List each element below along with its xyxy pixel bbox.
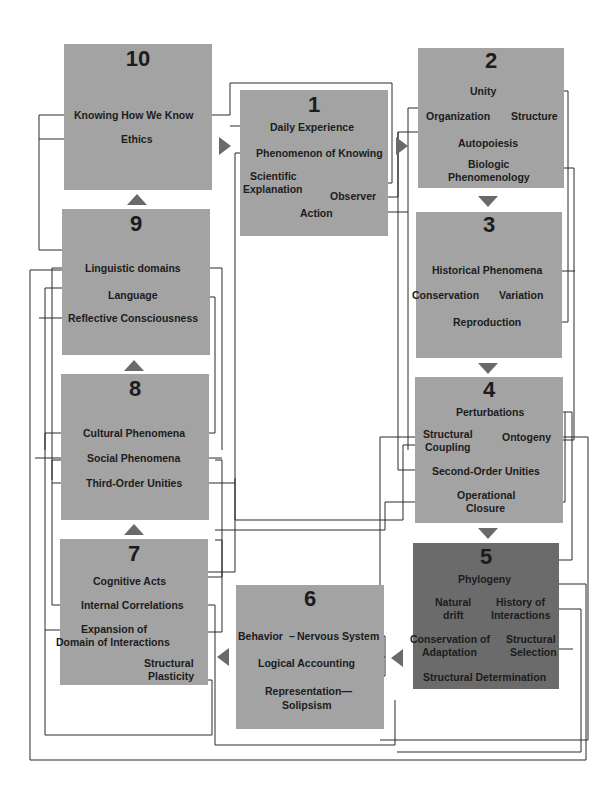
concept-historical-phenomena: Historical Phenomena bbox=[432, 264, 542, 277]
concept-structural-determination: Structural Determination bbox=[423, 671, 546, 684]
concept-behavior: Behavior bbox=[238, 630, 283, 643]
box-1: 1 Daily Experience Phenomenon of Knowing… bbox=[240, 90, 388, 236]
concept-logical-accounting: Logical Accounting bbox=[258, 657, 355, 670]
box-number: 6 bbox=[236, 586, 384, 612]
box-8: 8 Cultural Phenomena Social Phenomena Th… bbox=[61, 374, 209, 520]
concept-structure: Structure bbox=[511, 110, 558, 123]
box-number: 10 bbox=[64, 46, 212, 72]
arrow-4-to-5 bbox=[478, 528, 498, 539]
concept-scientific-explanation-2: Explanation bbox=[243, 183, 303, 196]
concept-conservation-of-adaptation-1: Conservation of bbox=[410, 633, 490, 646]
concept-unity: Unity bbox=[470, 85, 496, 98]
concept-third-order-unities: Third-Order Unities bbox=[86, 477, 182, 490]
concept-phylogeny: Phylogeny bbox=[458, 573, 511, 586]
concept-reflective-consciousness: Reflective Consciousness bbox=[68, 312, 198, 325]
box-number: 8 bbox=[61, 376, 209, 402]
concept-perturbations: Perturbations bbox=[456, 406, 524, 419]
arrow-1-to-2 bbox=[396, 137, 408, 155]
concept-variation: Variation bbox=[499, 289, 543, 302]
concept-nervous-system: Nervous System bbox=[297, 630, 379, 643]
concept-history-of-interactions-1: History of bbox=[496, 596, 545, 609]
concept-history-of-interactions-2: Interactions bbox=[491, 609, 551, 622]
box-5: 5 Phylogeny Natural drift History of Int… bbox=[413, 543, 559, 689]
concept-natural-drift-1: Natural bbox=[435, 596, 471, 609]
arrow-8-to-9 bbox=[124, 360, 144, 371]
concept-conservation: Conservation bbox=[412, 289, 479, 302]
concept-structural-selection-2: Selection bbox=[510, 646, 557, 659]
concept-action: Action bbox=[300, 207, 333, 220]
arrow-2-to-3 bbox=[478, 196, 498, 207]
arrow-9-to-10 bbox=[127, 194, 147, 205]
concept-ontogeny: Ontogeny bbox=[502, 431, 551, 444]
concept-structural-selection-1: Structural bbox=[506, 633, 556, 646]
box-3: 3 Historical Phenomena Conservation Vari… bbox=[416, 212, 562, 358]
concept-linguistic-domains: Linguistic domains bbox=[85, 262, 181, 275]
arrow-3-to-4 bbox=[478, 363, 498, 374]
concept-structural-coupling-1: Structural bbox=[423, 428, 473, 441]
box-number: 9 bbox=[62, 211, 210, 237]
concept-reproduction: Reproduction bbox=[453, 316, 521, 329]
concept-scientific-explanation-1: Scientific bbox=[250, 170, 297, 183]
box-6: 6 Behavior – Nervous System Logical Acco… bbox=[236, 585, 384, 729]
concept-daily-experience: Daily Experience bbox=[270, 121, 354, 134]
concept-operational-closure-1: Operational bbox=[457, 489, 515, 502]
arrow-5-to-6 bbox=[391, 649, 403, 667]
box-number: 7 bbox=[60, 541, 208, 567]
concept-expansion-of-domain-1: Expansion of bbox=[81, 623, 147, 636]
concept-social-phenomena: Social Phenomena bbox=[87, 452, 180, 465]
concept-cognitive-acts: Cognitive Acts bbox=[93, 575, 166, 588]
concept-internal-correlations: Internal Correlations bbox=[81, 599, 184, 612]
box-number: 3 bbox=[416, 212, 562, 238]
concept-ethics: Ethics bbox=[121, 133, 153, 146]
arrow-6-to-7 bbox=[217, 648, 229, 666]
box-2: 2 Unity Organization Structure Autopoies… bbox=[418, 48, 564, 188]
box-4: 4 Perturbations Structural Coupling Onto… bbox=[415, 377, 563, 523]
box-number: 1 bbox=[240, 92, 388, 118]
concept-solipsism: Solipsism bbox=[282, 699, 332, 712]
box-number: 5 bbox=[413, 544, 559, 570]
concept-observer: Observer bbox=[330, 190, 376, 203]
box-number: 2 bbox=[418, 48, 564, 74]
concept-phenomenon-of-knowing: Phenomenon of Knowing bbox=[256, 147, 383, 160]
concept-structural-coupling-2: Coupling bbox=[425, 441, 471, 454]
concept-language: Language bbox=[108, 289, 158, 302]
concept-natural-drift-2: drift bbox=[443, 609, 463, 622]
box-10: 10 Knowing How We Know Ethics bbox=[64, 44, 212, 190]
arrow-7-to-8 bbox=[124, 524, 144, 535]
box-number: 4 bbox=[415, 377, 563, 403]
concept-dash: – bbox=[289, 630, 295, 643]
concept-organization: Organization bbox=[426, 110, 490, 123]
box-9: 9 Linguistic domains Language Reflective… bbox=[62, 209, 210, 355]
concept-conservation-of-adaptation-2: Adaptation bbox=[422, 646, 477, 659]
concept-representation: Representation— bbox=[265, 685, 352, 698]
concept-operational-closure-2: Closure bbox=[466, 502, 505, 515]
concept-cultural-phenomena: Cultural Phenomena bbox=[83, 427, 185, 440]
concept-structural-plasticity-1: Structural bbox=[144, 657, 194, 670]
box-7: 7 Cognitive Acts Internal Correlations E… bbox=[60, 539, 208, 685]
arrow-10-to-1 bbox=[219, 137, 231, 155]
concept-expansion-of-domain-2: Domain of Interactions bbox=[56, 636, 170, 649]
concept-knowing-how-we-know: Knowing How We Know bbox=[74, 109, 193, 122]
concept-biologic-phenomenology-1: Biologic bbox=[468, 158, 509, 171]
concept-biologic-phenomenology-2: Phenomenology bbox=[448, 171, 530, 184]
concept-structural-plasticity-2: Plasticity bbox=[148, 670, 194, 683]
concept-autopoiesis: Autopoiesis bbox=[458, 137, 518, 150]
concept-second-order-unities: Second-Order Unities bbox=[432, 465, 540, 478]
